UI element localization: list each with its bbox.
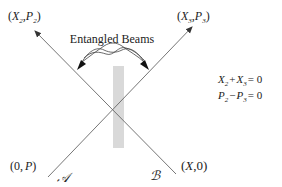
label-bottom-right: (X,0) [181,158,207,173]
beam-a-label: 𝒜 [57,170,73,185]
beam-b-label: ℬ [150,168,161,183]
label-top-left: (X2,P2) [8,9,41,25]
entanglement-diagram: Entangled Beams (X2,P2) (X3,P3) (0,P) (X… [0,0,282,187]
equation-x: X2+X3= 0 [217,73,263,88]
label-bottom-left: (0,P) [10,159,36,173]
label-top-right: (X3,P3) [177,9,210,25]
diagram-title: Entangled Beams [70,32,155,46]
beam-a-line [48,27,192,177]
left-beam-arrow-icon [77,60,86,70]
beam-b-line [35,31,176,174]
equation-p: P2−P3= 0 [217,89,263,104]
right-beam-arrow-icon [140,60,149,70]
